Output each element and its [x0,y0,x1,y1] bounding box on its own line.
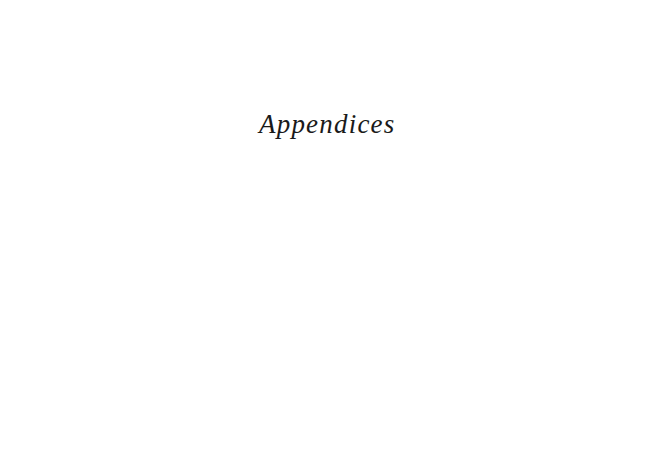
section-title: Appendices [259,111,395,138]
document-page: Appendices [0,0,653,465]
